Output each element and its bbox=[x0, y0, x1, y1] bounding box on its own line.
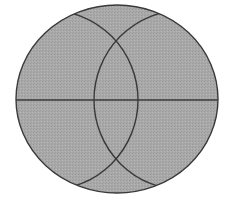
diagram-canvas bbox=[0, 0, 231, 206]
outer-circle-fill bbox=[16, 5, 218, 193]
circle-diagram bbox=[0, 0, 231, 206]
